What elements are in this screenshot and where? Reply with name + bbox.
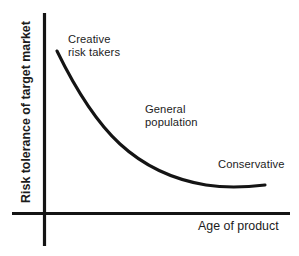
x-axis-label: Age of product [198,219,279,233]
annotation-conservative: Conservative [218,158,285,171]
y-axis-label: Risk tolerance of target market [19,12,33,212]
annotation-creative-risk-takers: Creative risk takers [68,33,120,60]
annotation-creative-line2: risk takers [68,46,120,59]
annotation-general-population: General population [145,103,198,130]
chart-figure: Creative risk takers General population … [0,0,299,256]
annotation-general-line1: General [145,103,198,116]
annotation-creative-line1: Creative [68,33,120,46]
annotation-general-line2: population [145,116,198,129]
annotation-conservative-line1: Conservative [218,158,285,171]
